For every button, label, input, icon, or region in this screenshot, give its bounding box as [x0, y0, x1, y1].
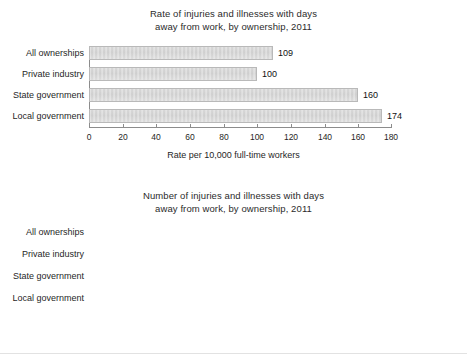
chart-count-category-label-3: Local government: [0, 293, 84, 303]
chart-rate-title-line-2: away from work, by ownership, 2011: [0, 21, 467, 34]
chart-rate-title-line-1: Rate of injuries and illnesses with days: [0, 8, 467, 21]
chart-rate-x-axis: [89, 127, 392, 128]
chart-rate-tick-label-180: 180: [384, 132, 398, 142]
chart-count-category-label-0: All ownerships: [0, 227, 84, 237]
chart-rate-bar-value-0: 109: [273, 48, 293, 58]
chart-count-category-label-1: Private industry: [0, 249, 84, 259]
chart-rate-bar-value-3: 174: [382, 111, 402, 121]
chart-rate-tick-80: [224, 124, 225, 128]
chart-rate-category-label-0: All ownerships: [0, 48, 84, 58]
chart-rate-tick-label-60: 60: [185, 132, 194, 142]
chart-count: Number of injuries and illnesses with da…: [0, 180, 467, 357]
chart-rate-bar-3: [89, 109, 382, 123]
chart-rate-tick-160: [358, 124, 359, 128]
chart-rate-tick-140: [325, 124, 326, 128]
chart-rate-bar-value-2: 160: [358, 90, 378, 100]
bottom-divider: [0, 353, 467, 354]
chart-rate-tick-label-140: 140: [318, 132, 332, 142]
chart-rate-tick-label-0: 0: [87, 132, 92, 142]
chart-rate-tick-20: [123, 124, 124, 128]
chart-rate-x-axis-caption: Rate per 10,000 full-time workers: [0, 150, 467, 160]
chart-rate-bar-1: [89, 67, 257, 81]
chart-rate-tick-label-120: 120: [284, 132, 298, 142]
chart-rate-tick-100: [257, 124, 258, 128]
chart-rate-tick-180: [391, 124, 392, 128]
chart-rate-category-label-3: Local government: [0, 111, 84, 121]
chart-count-title-line-2: away from work, by ownership, 2011: [0, 203, 467, 216]
chart-rate-tick-label-40: 40: [151, 132, 160, 142]
chart-rate-tick-label-80: 80: [219, 132, 228, 142]
chart-rate-category-label-1: Private industry: [0, 69, 84, 79]
chart-rate-tick-label-160: 160: [351, 132, 365, 142]
chart-rate-bar-value-1: 100: [257, 69, 277, 79]
chart-rate-bar-2: [89, 88, 358, 102]
chart-rate-tick-60: [190, 124, 191, 128]
chart-rate-tick-label-100: 100: [250, 132, 264, 142]
chart-rate-title: Rate of injuries and illnesses with days…: [0, 8, 467, 33]
chart-rate-tick-label-20: 20: [118, 132, 127, 142]
chart-rate: Rate of injuries and illnesses with days…: [0, 0, 467, 180]
chart-rate-category-label-2: State government: [0, 90, 84, 100]
chart-rate-tick-0: [89, 124, 90, 128]
chart-rate-bar-0: [89, 46, 273, 60]
chart-rate-plot-area: 109 100 160 174: [89, 46, 392, 128]
chart-count-title-line-1: Number of injuries and illnesses with da…: [0, 190, 467, 203]
chart-count-category-label-2: State government: [0, 271, 84, 281]
chart-rate-tick-40: [156, 124, 157, 128]
chart-count-title: Number of injuries and illnesses with da…: [0, 190, 467, 215]
chart-rate-tick-120: [291, 124, 292, 128]
